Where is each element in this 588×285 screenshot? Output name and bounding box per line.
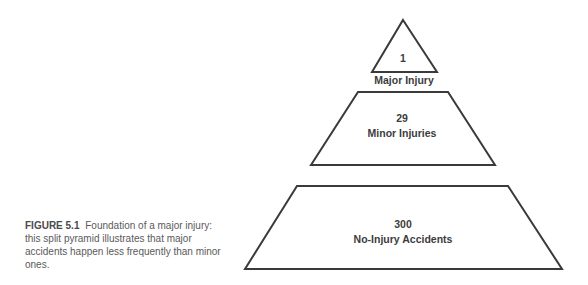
- figure-caption: FIGURE 5.1 Foundation of a major injury:…: [25, 219, 230, 271]
- no-injury-accidents-count: 300: [394, 218, 412, 231]
- figure-number: FIGURE 5.1: [25, 220, 79, 231]
- no-injury-accidents-label: No-Injury Accidents: [354, 233, 453, 246]
- major-injury-count: 1: [400, 52, 406, 65]
- major-injury-label: Major Injury: [374, 74, 434, 87]
- minor-injuries-count: 29: [396, 112, 408, 125]
- minor-injuries-label: Minor Injuries: [368, 127, 437, 140]
